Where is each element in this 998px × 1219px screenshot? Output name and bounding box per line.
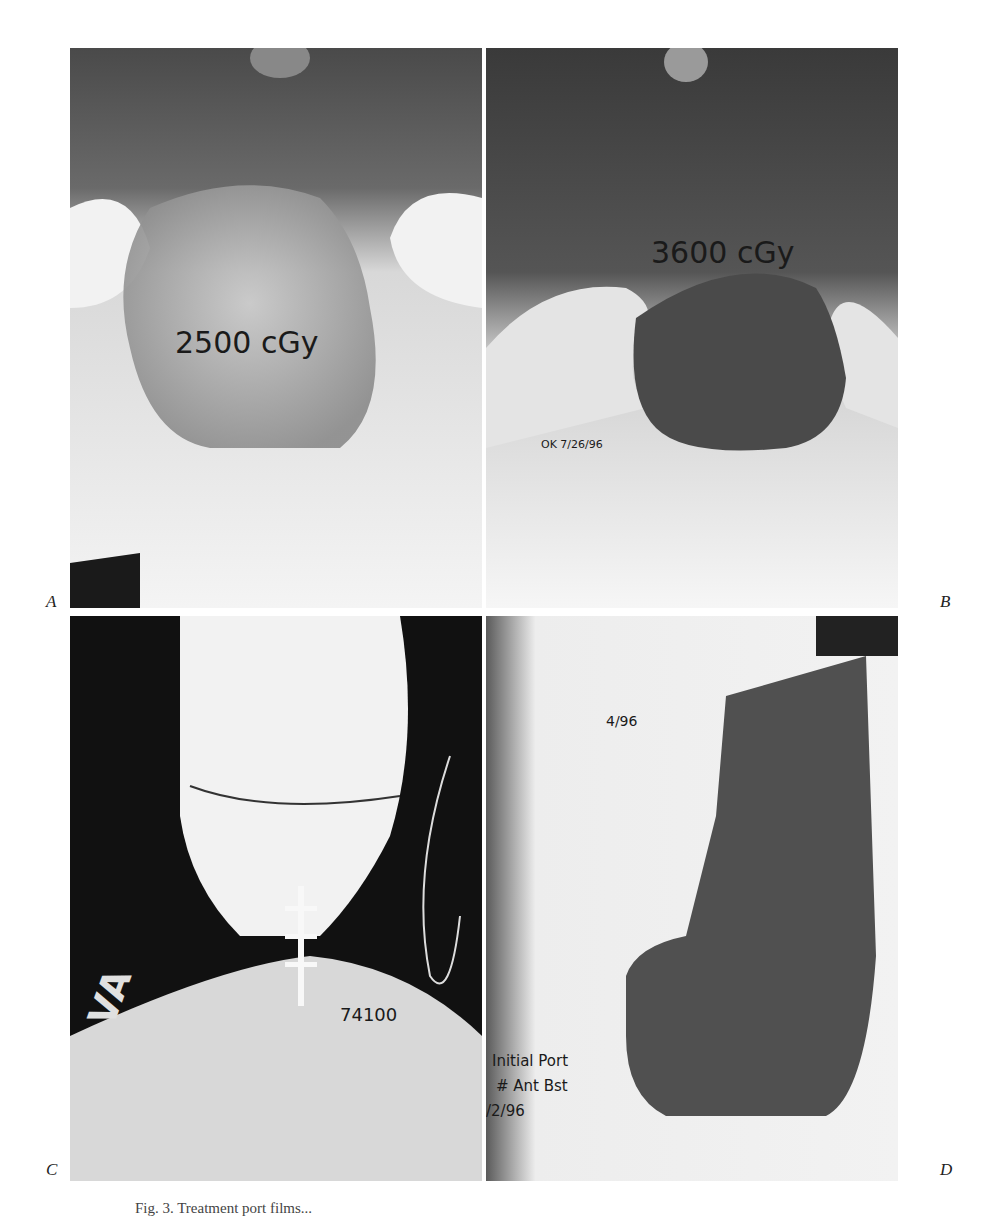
xray-image-b: 3600 cGy OK 7/26/96 xyxy=(486,48,898,608)
panel-label-d: D xyxy=(940,1160,952,1180)
panel-label-c: C xyxy=(46,1160,57,1180)
panel-d-xray: 4/96 Initial Port # Ant Bst /2/96 xyxy=(486,616,898,1181)
panel-label-a: A xyxy=(46,592,56,612)
annotation-date-d: 4/96 xyxy=(606,713,638,729)
annotation-date2-d: /2/96 xyxy=(486,1102,525,1120)
panel-c-xray: VA 74100 xyxy=(70,616,482,1181)
figure-caption: Fig. 3. Treatment port films... xyxy=(135,1200,312,1217)
panel-b-xray: 3600 cGy OK 7/26/96 xyxy=(486,48,898,608)
annotation-ant-bst-d: # Ant Bst xyxy=(496,1077,568,1095)
annotation-number-c: 74100 xyxy=(340,1004,397,1025)
annotation-dose-b: 3600 cGy xyxy=(651,235,794,270)
xray-image-d: 4/96 Initial Port # Ant Bst /2/96 xyxy=(486,616,898,1181)
annotation-initial-port-d: Initial Port xyxy=(492,1052,568,1070)
annotation-dose-a: 2500 cGy xyxy=(175,325,318,360)
xray-image-c: VA 74100 xyxy=(70,616,482,1181)
xray-image-a: 2500 cGy xyxy=(70,48,482,608)
annotation-ok-b: OK 7/26/96 xyxy=(541,438,603,451)
panel-label-b: B xyxy=(940,592,950,612)
panel-a-xray: 2500 cGy xyxy=(70,48,482,608)
